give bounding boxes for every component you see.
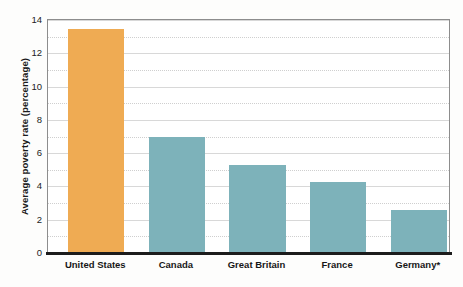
x-axis-tick-label: United States: [65, 259, 126, 270]
x-axis-tick-label: Canada: [159, 259, 193, 270]
y-axis-tick-labels: 02468101214: [0, 19, 42, 252]
y-axis-tick-label: 10: [2, 80, 42, 91]
bar-germany: [391, 210, 447, 252]
x-axis-tick-label: Great Britain: [228, 259, 286, 270]
bar-france: [310, 182, 366, 252]
plot-area: [47, 19, 450, 252]
bar-canada: [149, 137, 205, 252]
gridline-major: [48, 20, 449, 21]
bar-great-britain: [229, 165, 285, 252]
x-axis-tick-label: Germany*: [395, 259, 440, 270]
y-axis-tick-label: 2: [2, 213, 42, 224]
y-axis-tick-label: 6: [2, 147, 42, 158]
y-axis-tick-label: 12: [2, 47, 42, 58]
x-axis-tick-labels: United StatesCanadaGreat BritainFranceGe…: [47, 259, 450, 279]
x-axis-baseline: [46, 252, 452, 255]
y-axis-tick-label: 4: [2, 180, 42, 191]
bar-united-states: [68, 29, 124, 252]
chart-figure: Average poverty rate (percentage) 024681…: [0, 0, 463, 287]
y-axis-tick-label: 14: [2, 14, 42, 25]
x-axis-tick-label: France: [322, 259, 353, 270]
y-axis-tick-label: 0: [2, 247, 42, 258]
y-axis-tick-label: 8: [2, 113, 42, 124]
